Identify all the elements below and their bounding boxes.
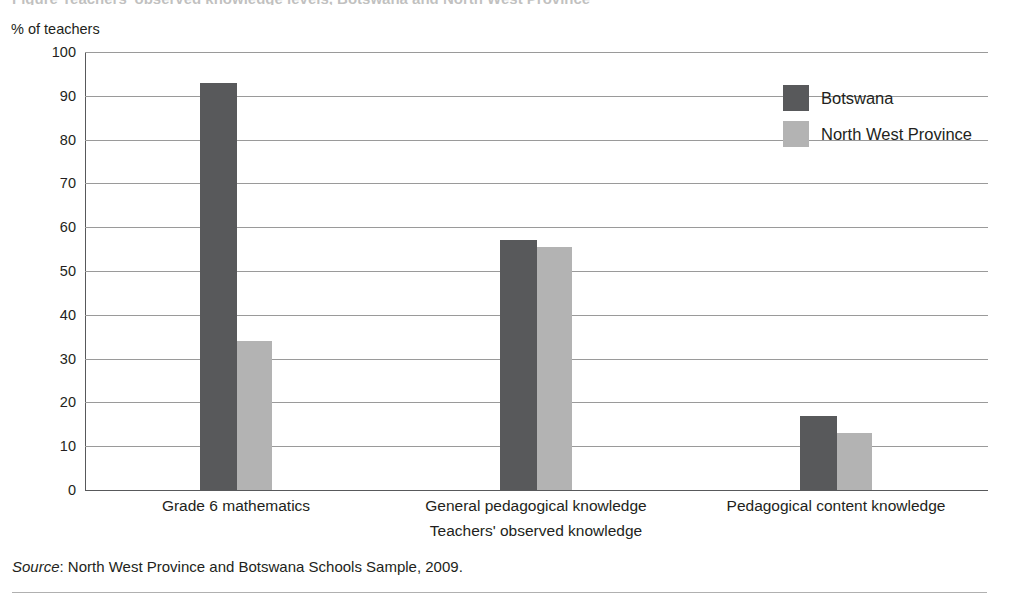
- figure-title: Figure Teachers' observed knowledge leve…: [12, 0, 972, 5]
- y-tick-label-80: 80: [4, 132, 76, 148]
- chart-legend: BotswanaNorth West Province: [783, 80, 998, 152]
- bar-1-2: [837, 433, 872, 490]
- legend-swatch-icon-0: [783, 85, 809, 111]
- legend-item-0[interactable]: Botswana: [783, 80, 998, 116]
- y-axis-caption: % of teachers: [11, 21, 100, 37]
- y-tick-label-30: 30: [4, 351, 76, 367]
- legend-item-1[interactable]: North West Province: [783, 116, 998, 152]
- y-tick-label-100: 100: [4, 44, 76, 60]
- gridline-100: [85, 52, 988, 53]
- gridline-0: [85, 490, 988, 491]
- legend-label-1: North West Province: [821, 125, 972, 144]
- bar-1-1: [537, 247, 572, 490]
- category-label-2: Pedagogical content knowledge: [727, 497, 946, 515]
- legend-label-0: Botswana: [821, 89, 893, 108]
- y-tick-label-20: 20: [4, 394, 76, 410]
- y-tick-label-0: 0: [4, 482, 76, 498]
- y-tick-label-10: 10: [4, 438, 76, 454]
- legend-swatch-icon-1: [783, 121, 809, 147]
- x-axis-title: Teachers' observed knowledge: [430, 522, 642, 540]
- bar-1-0: [237, 341, 272, 490]
- y-tick-label-50: 50: [4, 263, 76, 279]
- y-tick-label-40: 40: [4, 307, 76, 323]
- category-label-1: General pedagogical knowledge: [425, 497, 646, 515]
- y-tick-label-60: 60: [4, 219, 76, 235]
- bar-0-1: [500, 240, 537, 490]
- source-note: Source: North West Province and Botswana…: [12, 558, 463, 575]
- y-tick-label-70: 70: [4, 175, 76, 191]
- bar-0-0: [200, 83, 237, 490]
- bar-0-2: [800, 416, 837, 490]
- category-label-0: Grade 6 mathematics: [162, 497, 310, 515]
- y-tick-label-90: 90: [4, 88, 76, 104]
- source-text: : North West Province and Botswana Schoo…: [60, 558, 463, 575]
- source-label: Source: [12, 558, 60, 575]
- y-axis-tick-labels: 1009080706050403020100: [0, 52, 76, 490]
- bottom-divider: [12, 592, 987, 593]
